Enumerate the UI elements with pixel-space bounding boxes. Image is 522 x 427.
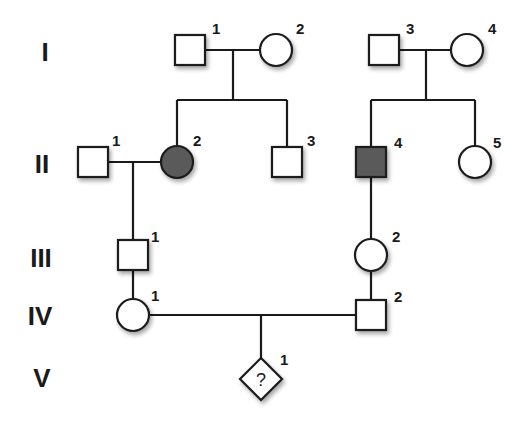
id-label-I-3: 3	[406, 20, 414, 37]
pedigree-chart: ? I II III IV V 1 2 3 4 1 2 3 4 5 1 2 1 …	[0, 0, 522, 427]
id-label-V-1: 1	[280, 351, 288, 368]
id-label-III-1: 1	[151, 228, 159, 245]
female-unaffected-I-4	[451, 34, 483, 66]
id-label-I-2: 2	[296, 20, 304, 37]
id-label-II-1: 1	[112, 132, 120, 149]
female-unaffected-I-2	[260, 34, 292, 66]
female-unaffected-III-2	[355, 239, 387, 271]
male-affected-II-4	[356, 147, 386, 177]
female-affected-II-2	[161, 146, 193, 178]
female-unaffected-II-5	[459, 146, 491, 178]
id-label-I-1: 1	[212, 20, 220, 37]
id-label-IV-1: 1	[151, 287, 159, 304]
generation-label-V: V	[33, 363, 50, 394]
relationship-lines	[108, 50, 475, 358]
individual-symbols	[78, 34, 491, 400]
id-label-I-4: 4	[488, 20, 496, 37]
id-label-II-3: 3	[307, 132, 315, 149]
male-unaffected-I-1	[175, 35, 205, 65]
pedigree-lines: ?	[0, 0, 522, 427]
generation-label-II: II	[35, 149, 49, 180]
generation-label-IV: IV	[28, 301, 53, 332]
id-label-II-5: 5	[493, 134, 501, 151]
id-label-III-2: 2	[392, 228, 400, 245]
male-unaffected-II-3	[272, 147, 302, 177]
id-label-IV-2: 2	[394, 288, 402, 305]
male-unaffected-IV-2	[356, 300, 386, 330]
female-unaffected-IV-1	[117, 299, 149, 331]
generation-label-I: I	[41, 37, 48, 68]
unknown-question-mark: ?	[256, 370, 266, 390]
male-unaffected-I-3	[369, 35, 399, 65]
id-label-II-4: 4	[394, 134, 402, 151]
id-label-II-2: 2	[193, 132, 201, 149]
male-unaffected-II-1	[78, 147, 108, 177]
male-unaffected-III-1	[118, 240, 148, 270]
generation-label-III: III	[30, 243, 52, 274]
